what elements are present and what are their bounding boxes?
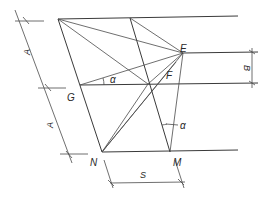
- line-top2-to-e: [130, 18, 183, 53]
- diagram-canvas: E F G N M α α A A B S: [0, 0, 275, 204]
- geometric-diagram: E F G N M α α A A B S: [0, 0, 275, 204]
- tick-top: [23, 17, 29, 24]
- alpha-arc-top: [103, 78, 104, 85]
- left-slanted-side: [58, 19, 102, 152]
- label-alpha-top: α: [110, 74, 116, 85]
- line-top-to-f: [58, 19, 148, 84]
- label-f: F: [166, 70, 173, 81]
- alpha-leader: [166, 124, 178, 125]
- line-top-to-e: [58, 19, 183, 53]
- dimension-s: S: [140, 170, 146, 180]
- tick-mid: [45, 84, 51, 91]
- e-horizontal-line: [183, 52, 258, 53]
- g-horizontal-line: [80, 83, 258, 85]
- dimension-b: B: [242, 65, 252, 71]
- right-slanted-side: [130, 18, 170, 152]
- label-alpha-bottom: α: [180, 120, 186, 131]
- label-e: E: [180, 43, 187, 54]
- label-m: M: [173, 157, 182, 168]
- label-n: N: [90, 157, 98, 168]
- dimension-a-lower: A: [45, 122, 55, 129]
- left-dimension-line: [15, 10, 72, 163]
- s-dimension-line: [110, 182, 185, 183]
- tick-bottom: [66, 151, 72, 158]
- top-line: [58, 16, 238, 19]
- line-e-to-m: [170, 53, 183, 152]
- dimension-a-upper: A: [22, 49, 32, 56]
- label-g: G: [67, 92, 75, 103]
- line-n-to-f: [102, 84, 148, 152]
